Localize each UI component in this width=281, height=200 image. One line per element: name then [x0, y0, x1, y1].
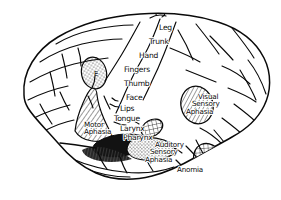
label-anomia-line-1: Anomia [177, 166, 203, 173]
label-leg: Leg [159, 24, 172, 32]
label-lips: Lips [120, 105, 134, 113]
label-visual-sensory-aphasia-line-3: Aphasia [186, 108, 220, 115]
label-face: Face [126, 94, 142, 102]
label-motor-aphasia: Motor Aphasia [84, 121, 111, 136]
label-trunk: Trunk [149, 38, 169, 46]
label-anomia: Anomia [177, 166, 203, 173]
label-auditory-sensory-aphasia: Auditory Sensory Aphasia [155, 141, 184, 163]
label-fingers: Fingers [124, 66, 150, 74]
label-tongue: Tongue [114, 115, 140, 123]
label-larynx: Larynx [120, 125, 145, 133]
label-thumb: Thumb [124, 80, 149, 88]
label-visual-sensory-aphasia: Visual Sensory Aphasia [198, 93, 220, 115]
label-motor-aphasia-line-2: Aphasia [84, 128, 111, 135]
label-auditory-sensory-aphasia-line-3: Aphasia [145, 156, 184, 163]
label-hand: Hand [139, 52, 158, 60]
label-pharynx: Pharynx [123, 134, 153, 142]
label-eye-field: E [94, 70, 98, 78]
brain-diagram-figure: Leg Trunk Hand Fingers Thumb Face Lips T… [0, 0, 281, 200]
